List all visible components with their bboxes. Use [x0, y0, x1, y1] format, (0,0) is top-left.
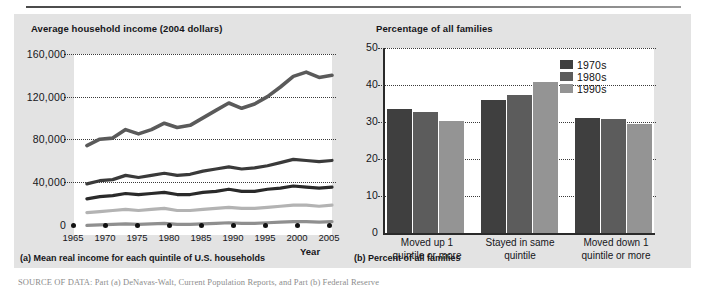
group-label-stayed-same: Stayed in same quintile [472, 237, 568, 262]
legend-item-1990s: 1990s [560, 83, 607, 94]
bar-1990s-group2 [533, 82, 558, 233]
group-label-stayed-same-line1: Stayed in same [472, 237, 568, 250]
group-label-moved-down: Moved down 1 quintile or more [566, 237, 666, 262]
xaxis-dot-1980 [167, 223, 172, 228]
legend-label-1970s: 1970s [577, 59, 607, 71]
bar-1970s-group1 [387, 109, 412, 233]
panel-a-xaxis-name: Year [300, 246, 320, 257]
group-label-moved-down-line1: Moved down 1 [566, 237, 666, 250]
bar-1980s-group2 [507, 95, 532, 233]
bar-1990s-group1 [439, 121, 464, 233]
xtick-label-2005: 2005 [308, 232, 350, 243]
panel-b-bars [354, 14, 691, 268]
legend-item-1980s: 1980s [560, 71, 607, 82]
figure-root: Average household income (2004 dollars) … [0, 0, 705, 289]
xaxis-dot-2005 [327, 223, 332, 228]
bar-1980s-group3 [601, 119, 626, 233]
legend-swatch-1970s [560, 60, 573, 69]
legend-swatch-1990s [560, 84, 573, 93]
panel-a-caption: (a) Mean real income for each quintile o… [20, 253, 265, 263]
bar-1970s-group2 [481, 100, 506, 233]
group-label-stayed-same-line2: quintile [472, 250, 568, 263]
source-note: SOURCE OF DATA: Part (a) DeNavas-Walt, C… [18, 277, 678, 287]
series-line-highest-quintile [87, 72, 332, 145]
legend-item-1970s: 1970s [560, 59, 607, 70]
top-divider-rule [26, 6, 681, 8]
xaxis-dot-1995 [263, 223, 268, 228]
legend-swatch-1980s [560, 72, 573, 81]
bar-1970s-group3 [575, 118, 600, 233]
panel-b-legend: 1970s 1980s 1990s [560, 59, 607, 95]
xaxis-dot-1990 [231, 223, 236, 228]
legend-label-1990s: 1990s [577, 83, 607, 95]
series-line-fourth-quintile [87, 159, 332, 183]
series-line-second-quintile [87, 205, 332, 212]
xaxis-dot-1965 [71, 223, 76, 228]
group-label-moved-up-line1: Moved up 1 [379, 237, 475, 250]
group-label-moved-down-line2: quintile or more [566, 250, 666, 263]
legend-label-1980s: 1980s [577, 71, 607, 83]
panel-a: Average household income (2004 dollars) … [14, 14, 354, 268]
series-line-third-quintile [87, 186, 332, 199]
xaxis-dot-2000 [295, 223, 300, 228]
bar-1990s-group3 [627, 124, 652, 233]
xaxis-dot-1970 [103, 223, 108, 228]
xaxis-dot-1975 [135, 223, 140, 228]
xaxis-dot-1985 [199, 223, 204, 228]
panel-a-series-lines [14, 14, 354, 268]
panel-b: Percentage of all families 50 40 30 20 1… [354, 14, 691, 268]
bar-1980s-group1 [413, 112, 438, 233]
panel-b-caption: (b) Percent of all families [354, 253, 461, 263]
